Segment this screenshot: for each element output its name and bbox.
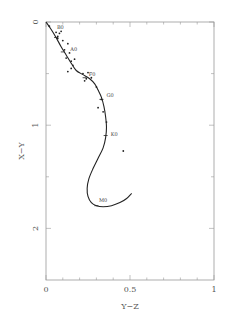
spectral-type-label: K0 — [111, 131, 118, 137]
series-layer — [46, 22, 132, 207]
spectral-type-label: G0 — [106, 92, 113, 98]
main-sequence-line — [46, 22, 132, 207]
star-point — [69, 52, 71, 54]
star-point — [48, 25, 50, 27]
star-point — [84, 80, 86, 82]
x-axis-label: Y−Z — [120, 302, 139, 311]
star-point — [70, 68, 72, 70]
star-point — [106, 121, 108, 123]
star-point — [67, 71, 69, 73]
spectral-type-label: A0 — [69, 46, 77, 52]
y-tick-label: 2 — [31, 226, 40, 231]
star-point — [59, 32, 61, 34]
star-point — [60, 30, 62, 32]
star-point — [122, 150, 124, 152]
spectral-type-label: F0 — [89, 71, 96, 77]
x-tick-label: 1 — [211, 285, 216, 294]
star-point — [62, 40, 64, 42]
cropped-caption-fragment — [0, 318, 140, 328]
spectral-type-label: M0 — [99, 197, 107, 203]
spectral-type-label: B0 — [57, 24, 64, 30]
annotations-layer: B0A0F0G0K0M0 — [57, 24, 118, 202]
star-point — [55, 31, 57, 33]
star-point — [96, 86, 98, 88]
x-tick-label: 0.5 — [124, 285, 137, 294]
star-point — [90, 77, 92, 79]
star-point — [57, 38, 59, 40]
star-point — [67, 43, 69, 45]
star-point — [64, 49, 66, 51]
chart: 00.51012 Y−Z X−Y B0A0F0G0K0M0 — [0, 0, 230, 328]
x-tick-label: 0 — [43, 285, 48, 294]
star-point — [82, 73, 84, 75]
star-point — [72, 64, 74, 66]
star-point — [65, 57, 67, 59]
y-axis-label: X−Y — [17, 141, 26, 159]
star-point — [102, 111, 104, 113]
star-point — [97, 107, 99, 109]
star-point — [57, 36, 59, 38]
tick-labels: 00.51012 — [31, 19, 217, 294]
y-tick-label: 1 — [31, 123, 40, 128]
y-tick-label: 0 — [31, 19, 40, 24]
star-point — [70, 60, 72, 62]
star-point — [85, 78, 87, 80]
star-point — [74, 58, 76, 60]
